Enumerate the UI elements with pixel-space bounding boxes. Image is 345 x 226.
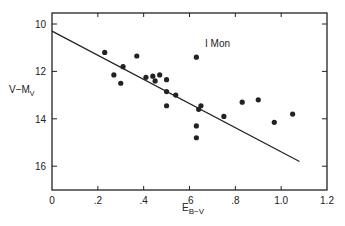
plot-frame	[52, 13, 327, 190]
data-point	[194, 135, 199, 140]
data-point	[153, 78, 158, 83]
y-tick-label: 14	[35, 114, 47, 125]
x-axis-ticks: 0.2.4.6.81.01.2	[49, 13, 334, 206]
x-tick-label: .4	[139, 195, 148, 206]
y-axis-label: V−MV	[9, 84, 35, 97]
data-point	[240, 100, 245, 105]
x-axis-label-subscript: B−V	[189, 207, 205, 216]
data-point	[164, 77, 169, 82]
y-tick-label: 16	[35, 161, 47, 172]
data-points	[102, 50, 295, 141]
data-point	[143, 75, 148, 80]
data-point	[272, 120, 277, 125]
y-axis-ticks: 10121416	[35, 19, 327, 172]
data-point	[118, 81, 123, 86]
y-axis-label-subscript: V	[30, 90, 35, 97]
data-point	[196, 107, 201, 112]
y-tick-label: 12	[35, 66, 47, 77]
scatter-chart: 0.2.4.6.81.01.2 10121416 I Mon EB−V V−MV	[0, 0, 345, 226]
data-point	[164, 89, 169, 94]
data-point	[173, 93, 178, 98]
data-point	[157, 72, 162, 77]
x-tick-label: 0	[49, 195, 55, 206]
data-point	[134, 53, 139, 58]
data-point	[256, 97, 261, 102]
data-point	[194, 123, 199, 128]
data-point	[120, 64, 125, 69]
data-point	[194, 55, 199, 60]
x-tick-label: .2	[94, 195, 103, 206]
data-point	[102, 50, 107, 55]
x-tick-label: 1.2	[320, 195, 334, 206]
x-tick-label: .8	[231, 195, 240, 206]
data-point	[164, 103, 169, 108]
data-point	[150, 74, 155, 79]
data-point	[290, 111, 295, 116]
annotation-label: I Mon	[205, 38, 230, 49]
data-point	[221, 114, 226, 119]
y-tick-label: 10	[35, 19, 47, 30]
data-point	[111, 72, 116, 77]
x-tick-label: 1.0	[274, 195, 288, 206]
